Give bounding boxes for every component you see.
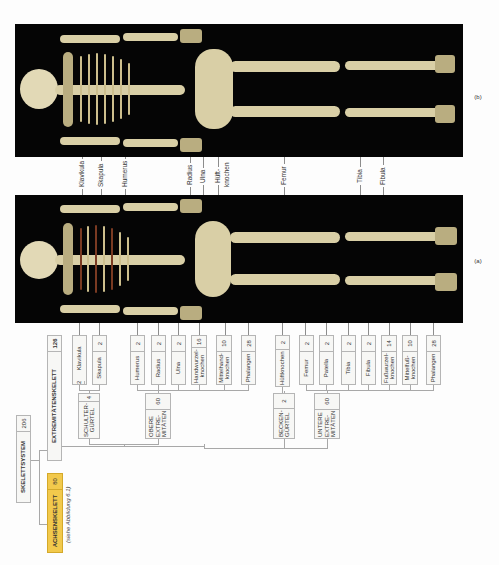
group-box-beckenguertel: 2 BECKEN-GÜRTEL	[273, 393, 295, 439]
bone-box-radius: 2Radius	[151, 335, 166, 385]
bone-box-fibula: 2Fibula	[361, 335, 376, 385]
skeleton-figure: (b) (a) Klavikula Skapula Humeru	[0, 0, 499, 565]
photo-label-ulna: Ulna	[199, 168, 206, 185]
bone-box-femur: 2Femur	[299, 335, 314, 385]
photo-label-skapula: Skapula	[97, 162, 104, 190]
bone-box-mittelfussknochen: 10Mittelfuß-knochen	[402, 335, 418, 385]
bone-box-hueftknochen: 2Hüftknochen	[275, 335, 290, 387]
photo-panel-b	[15, 24, 463, 157]
photo-label-hueftknochen-1: Hüft-	[214, 167, 221, 185]
photo-label-tibia: Tibia	[356, 167, 363, 185]
photo-label-fibula: Fibula	[379, 165, 386, 187]
skull	[20, 241, 58, 279]
photo-label-humerus: Humerus	[121, 159, 128, 189]
axial-skeleton-note: (siehe Abbildung 6.1)	[65, 487, 71, 543]
bone-box-ulna: 2Ulna	[171, 335, 186, 385]
skull	[20, 69, 58, 109]
appendicular-skeleton-box: 126 EXTREMITÄTENSKELETT	[47, 335, 62, 461]
group-box-obere-extremitaeten: 60 OBEREEXTRE-MITÄTEN	[145, 393, 171, 439]
photo-panel-a	[15, 195, 463, 323]
bone-box-klavikula: 2Klavikula	[72, 335, 87, 385]
bone-box-phalangen-hand: 28Phalangen	[241, 335, 256, 385]
photo-label-klavikula: Klavikula	[78, 159, 85, 189]
bone-box-skapula: 2Skapula	[92, 335, 107, 385]
bone-box-tibia: 2Tibia	[341, 335, 356, 385]
bone-box-patella: 2Patella	[319, 335, 334, 385]
group-box-schultergürtel: 4 SCHULTER-GÜRTEL	[78, 393, 100, 439]
panel-label-a: (a)	[474, 258, 481, 264]
bone-box-fusswurzelknochen: 14Fußwurzel-knochen	[381, 335, 397, 385]
bone-box-handwurzelknochen: 16Handwurzel-knochen	[191, 335, 207, 385]
group-box-untere-extremitaeten: 60 UNTEREEXTRE-MITÄTEN	[314, 393, 340, 439]
skeletal-system-box: 206 SKELETTSYSTEM	[16, 415, 31, 503]
bone-box-mittelhandknochen: 10Mittelhand-knochen	[216, 335, 232, 385]
axial-skeleton-box: 80 ACHSENSKELETT	[47, 473, 63, 553]
bone-box-phalangen-fuss: 28Phalangen	[426, 335, 441, 385]
photo-label-femur: Femur	[280, 164, 287, 187]
photo-label-radius: Radius	[186, 163, 193, 187]
bone-box-humerus: 2Humerus	[130, 335, 145, 385]
panel-label-b: (b)	[474, 94, 481, 100]
photo-label-hueftknochen-2: knochen	[223, 160, 230, 189]
